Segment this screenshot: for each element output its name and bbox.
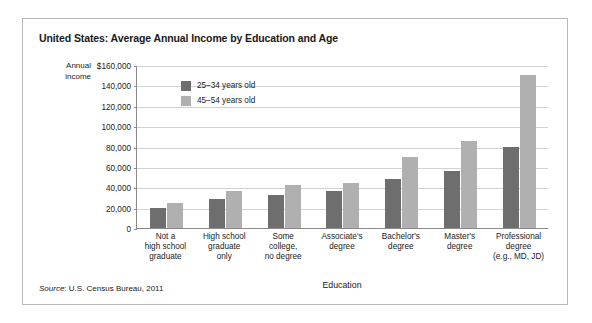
x-axis-label-line: Bachelor's: [371, 232, 430, 242]
x-axis-label-line: no degree: [254, 252, 313, 262]
x-axis-label-line: degree: [489, 242, 548, 252]
legend-item[interactable]: 25–34 years old: [181, 79, 255, 92]
bar-older[interactable]: [461, 141, 477, 228]
bar-older[interactable]: [402, 157, 418, 228]
bar-older[interactable]: [167, 203, 183, 228]
y-axis-tick-label: 140,000: [101, 82, 131, 91]
bar-older[interactable]: [285, 185, 301, 228]
legend-item[interactable]: 45–54 years old: [181, 94, 255, 107]
source-label: Source: [39, 284, 64, 293]
bar-older[interactable]: [520, 75, 536, 228]
bar-group: [314, 66, 373, 228]
chart-title: United States: Average Annual Income by …: [39, 32, 338, 44]
x-axis-label-line: Some: [254, 232, 313, 242]
x-axis-label-line: graduate: [136, 252, 195, 262]
x-axis-label-line: degree: [313, 242, 372, 252]
x-axis-category-label: Associate'sdegree: [313, 232, 372, 252]
bar-group: [255, 66, 314, 228]
x-axis-label-line: graduate: [195, 242, 254, 252]
bar-young[interactable]: [326, 191, 342, 228]
plot-area: $160,000140,000120,000100,00080,00060,00…: [136, 66, 548, 229]
legend-item-label: 25–34 years old: [197, 81, 255, 90]
x-axis-label-line: High school: [195, 232, 254, 242]
x-axis-category-label: High schoolgraduateonly: [195, 232, 254, 262]
x-axis-label-line: Not a: [136, 232, 195, 242]
figure-frame: United States: Average Annual Income by …: [22, 18, 568, 305]
x-axis-category-label: Bachelor'sdegree: [371, 232, 430, 252]
x-axis-category-label: Professionaldegree(e.g., MD, JD): [489, 232, 548, 262]
y-axis-tick-label: 40,000: [106, 184, 131, 193]
bar-older[interactable]: [226, 191, 242, 228]
y-axis-tick-label: 0: [126, 225, 131, 234]
legend-swatch-icon: [181, 81, 191, 91]
source-note: Source: U.S. Census Bureau, 2011: [39, 284, 163, 293]
source-value: : U.S. Census Bureau, 2011: [64, 284, 163, 293]
bar-young[interactable]: [385, 179, 401, 228]
x-axis-category-label: Master'sdegree: [430, 232, 489, 252]
y-axis-tick-label: 20,000: [106, 204, 131, 213]
bar-young[interactable]: [268, 195, 284, 228]
y-axis-title-line2: income: [45, 72, 91, 83]
x-axis-label-line: high school: [136, 242, 195, 252]
plot-axes: $160,000140,000120,000100,00080,00060,00…: [136, 66, 548, 229]
bar-older[interactable]: [343, 183, 359, 228]
x-axis-category-label: Not ahigh schoolgraduate: [136, 232, 195, 262]
legend-swatch-icon: [181, 96, 191, 106]
y-axis-title-line1: Annual: [45, 61, 91, 72]
x-axis-label-line: Professional: [489, 232, 548, 242]
y-axis-tick-label: $160,000: [97, 62, 131, 71]
bar-group: [372, 66, 431, 228]
bar-young[interactable]: [444, 171, 460, 228]
bar-group: [431, 66, 490, 228]
bar-young[interactable]: [150, 208, 166, 228]
bar-young[interactable]: [503, 147, 519, 229]
x-axis-label-line: (e.g., MD, JD): [489, 252, 548, 262]
x-axis-label-line: Associate's: [313, 232, 372, 242]
y-axis-tick: [134, 229, 137, 230]
y-axis-tick-label: 60,000: [106, 163, 131, 172]
y-axis-title: Annual income: [45, 61, 91, 82]
x-axis-title: Education: [136, 280, 548, 290]
x-axis-label-line: degree: [371, 242, 430, 252]
x-axis-category-label: Somecollege,no degree: [254, 232, 313, 262]
x-axis-label-line: college,: [254, 242, 313, 252]
y-axis-tick-label: 100,000: [101, 123, 131, 132]
y-axis-tick-label: 80,000: [106, 143, 131, 152]
y-axis-tick-label: 120,000: [101, 102, 131, 111]
bar-young[interactable]: [209, 199, 225, 228]
x-axis-label-line: degree: [430, 242, 489, 252]
chart-legend: 25–34 years old45–54 years old: [181, 79, 255, 109]
x-axis-label-line: only: [195, 252, 254, 262]
bar-group: [490, 66, 549, 228]
x-axis-category-labels: Not ahigh schoolgraduateHigh schoolgradu…: [136, 232, 548, 278]
x-axis-label-line: Master's: [430, 232, 489, 242]
legend-item-label: 45–54 years old: [197, 96, 255, 105]
